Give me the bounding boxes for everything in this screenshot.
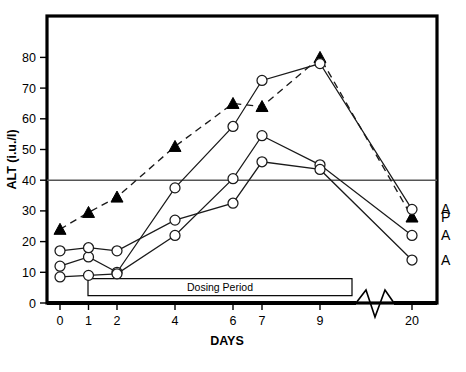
y-tick-label-60: 60 xyxy=(22,112,36,126)
series-end-label-P: P xyxy=(441,209,450,225)
data-point-A3-day1 xyxy=(84,243,94,253)
data-point-A1-day6 xyxy=(228,121,238,131)
data-point-A1-day20 xyxy=(407,204,417,214)
data-point-A3-day6 xyxy=(228,198,238,208)
data-point-A1-day1 xyxy=(84,252,94,262)
data-point-A1-day9 xyxy=(315,59,325,69)
series-end-label-A3: A xyxy=(441,252,451,268)
data-point-A3-day7 xyxy=(257,157,267,167)
data-point-A3-day9 xyxy=(315,164,325,174)
x-tick-label-9: 9 xyxy=(317,314,324,328)
data-point-A3-day20 xyxy=(407,255,417,265)
series-end-label-A2: A xyxy=(441,227,451,243)
y-tick-label-80: 80 xyxy=(22,51,36,65)
data-point-A2-day1 xyxy=(84,270,94,280)
y-tick-label-0: 0 xyxy=(29,297,36,311)
y-tick-label-30: 30 xyxy=(22,204,36,218)
y-tick-label-40: 40 xyxy=(22,174,36,188)
y-tick-label-10: 10 xyxy=(22,266,36,280)
x-tick-label-20: 20 xyxy=(405,314,419,328)
dosing-period-label: Dosing Period xyxy=(187,281,253,293)
data-point-A3-day2 xyxy=(112,246,122,256)
data-point-A1-day7 xyxy=(257,75,267,85)
y-tick-label-20: 20 xyxy=(22,235,36,249)
data-point-A3-day0 xyxy=(55,246,65,256)
data-point-A1-day4 xyxy=(170,183,180,193)
x-tick-label-6: 6 xyxy=(230,314,237,328)
data-point-A2-day2 xyxy=(112,269,122,279)
x-tick-label-7: 7 xyxy=(259,314,266,328)
y-tick-label-70: 70 xyxy=(22,82,36,96)
alt-line-chart: 01020304050607080ALT (i.u./l)012467920DA… xyxy=(0,0,466,372)
data-point-A2-day7 xyxy=(257,131,267,141)
x-tick-label-4: 4 xyxy=(172,314,179,328)
x-tick-label-0: 0 xyxy=(57,314,64,328)
x-axis-title: DAYS xyxy=(210,334,244,348)
chart-figure: 01020304050607080ALT (i.u./l)012467920DA… xyxy=(0,0,466,372)
data-point-A2-day20 xyxy=(407,230,417,240)
data-point-A1-day0 xyxy=(55,261,65,271)
data-point-A2-day4 xyxy=(170,230,180,240)
x-tick-label-1: 1 xyxy=(85,314,92,328)
data-point-A2-day0 xyxy=(55,272,65,282)
data-point-A2-day6 xyxy=(228,174,238,184)
y-axis-title: ALT (i.u./l) xyxy=(5,129,19,189)
y-tick-label-50: 50 xyxy=(22,143,36,157)
x-tick-label-2: 2 xyxy=(114,314,121,328)
data-point-A3-day4 xyxy=(170,215,180,225)
